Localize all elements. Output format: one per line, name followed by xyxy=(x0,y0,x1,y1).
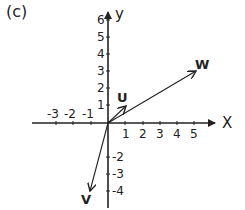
x-tick-label: 4 xyxy=(173,127,181,141)
y-tick-label: 1 xyxy=(97,98,105,112)
x-tick-label: -2 xyxy=(64,107,76,121)
y-tick-label: 5 xyxy=(97,30,105,44)
vector-u-label: U xyxy=(117,90,128,105)
x-tick-label: -1 xyxy=(82,107,94,121)
x-tick-label: 1 xyxy=(122,127,130,141)
y-tick-label: -4 xyxy=(112,184,124,198)
x-tick-label: 5 xyxy=(190,127,198,141)
y-tick-label: -2 xyxy=(112,150,124,164)
y-tick-label: 2 xyxy=(97,81,105,95)
vector-diagram: -3 -2 -1 1 2 3 4 5 6 5 4 3 2 1 -2 -3 -4 … xyxy=(0,0,245,210)
vector-w-label: W xyxy=(195,57,209,72)
y-tick-label: 6 xyxy=(97,13,105,27)
y-tick-label: 4 xyxy=(97,47,105,61)
x-tick-label: -3 xyxy=(47,107,59,121)
x-tick-label: 3 xyxy=(156,127,164,141)
y-tick-label: 3 xyxy=(97,64,105,78)
y-axis-label: y xyxy=(115,5,124,23)
x-tick-label: 2 xyxy=(139,127,147,141)
vector-v xyxy=(90,123,108,191)
y-tick-label: -3 xyxy=(112,167,124,181)
vector-v-label: V xyxy=(81,192,91,207)
x-axis-label: X xyxy=(222,114,232,132)
